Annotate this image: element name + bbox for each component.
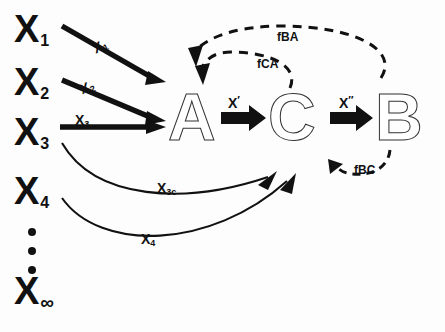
edge-label-x-prime-base: X (228, 95, 237, 111)
source-node-x4: X4 (14, 172, 49, 211)
edge-label-x4: X4 (141, 231, 155, 248)
edge-label-x3-base: X (75, 112, 84, 128)
source-node-x4-subscript: 4 (40, 194, 49, 211)
edge-label-x-double-prime-base: X (339, 95, 348, 111)
source-node-x1-subscript: 1 (40, 32, 49, 49)
input-edge-x4-c (62, 173, 296, 236)
source-node-x3-subscript: 3 (40, 135, 49, 152)
input-edge-x1-a (62, 26, 166, 85)
edge-label-x3c-base: X (157, 180, 166, 196)
source-node-x3-base: X (14, 111, 39, 153)
edge-label-x-double-prime: X″ (339, 95, 354, 111)
feedback-label-fbc: fBC (354, 163, 375, 177)
diagram-canvas: X1 X2 X3 X4 X∞ A C B X1 X2 X3 X3c X4 X′ … (0, 0, 445, 332)
source-node-xinf-subscript: ∞ (40, 292, 54, 313)
feedback-label-fca: fCA (257, 57, 278, 71)
source-node-x2-base: X (14, 61, 39, 103)
edge-label-x-prime-mark: ′ (237, 94, 240, 106)
source-node-xinf: X∞ (14, 272, 54, 312)
edge-label-x3c: X3c (157, 180, 176, 197)
vertical-ellipsis-icon (28, 228, 36, 274)
diagram-vector-layer (0, 0, 445, 332)
source-node-x3: X3 (14, 113, 49, 152)
state-node-a: A (168, 84, 216, 150)
feedback-label-fba: fBA (277, 30, 298, 44)
edge-label-x4-base: X (141, 231, 150, 247)
ellipsis-dot (28, 228, 36, 236)
edge-label-x-prime: X′ (228, 95, 240, 111)
state-node-b: B (375, 84, 423, 150)
edge-label-x4-subscript: 4 (150, 238, 155, 248)
source-node-x2-subscript: 2 (40, 85, 49, 102)
source-node-x2: X2 (14, 63, 49, 102)
source-node-x1-base: X (14, 8, 39, 50)
source-node-xinf-base: X (14, 270, 39, 312)
source-node-x4-base: X (14, 170, 39, 212)
edge-label-x3-subscript: 3 (84, 119, 89, 129)
edge-label-x3: X3 (75, 112, 89, 129)
ellipsis-dot (28, 247, 36, 255)
state-node-c: C (268, 84, 316, 150)
source-node-x1: X1 (14, 10, 49, 49)
edge-label-x-double-prime-mark: ″ (348, 94, 353, 106)
edge-label-x3c-subscript: 3c (166, 187, 176, 197)
